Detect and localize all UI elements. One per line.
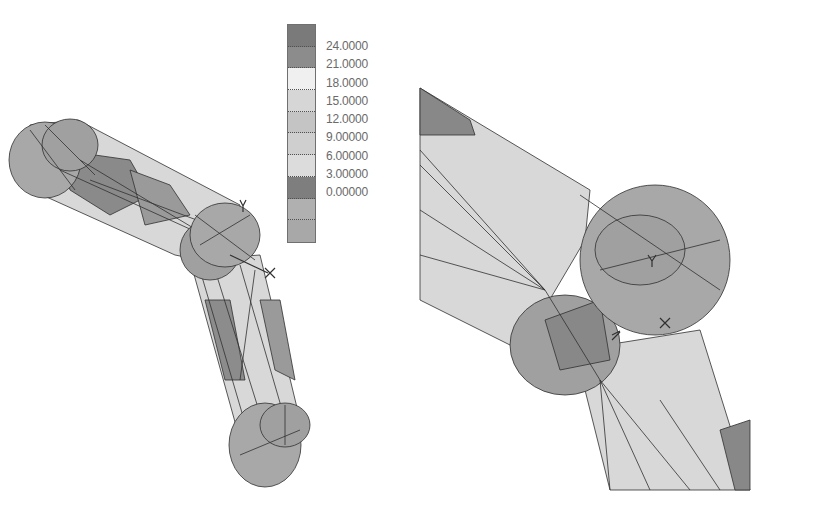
right-zoom-model bbox=[0, 0, 819, 506]
